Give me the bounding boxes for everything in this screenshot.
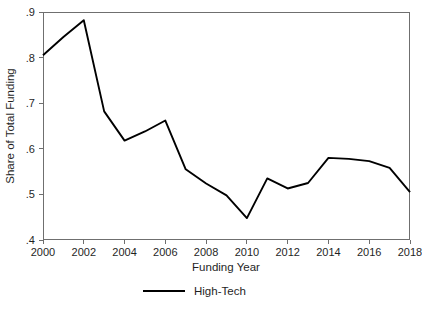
y-axis-title: Share of Total Funding <box>4 68 16 184</box>
y-tick-label: .6 <box>26 143 35 155</box>
line-chart: .4.5.6.7.8.9 200020022004200620082010201… <box>0 0 422 309</box>
x-tick-label: 2016 <box>357 246 381 258</box>
x-axis-title: Funding Year <box>192 261 260 273</box>
y-tick-label: .8 <box>26 52 35 64</box>
plot-area-background <box>43 12 410 240</box>
y-tick-label: .9 <box>26 6 35 18</box>
x-tick-label: 2004 <box>112 246 136 258</box>
x-tick-label: 2000 <box>31 246 55 258</box>
chart-figure: .4.5.6.7.8.9 200020022004200620082010201… <box>0 0 422 309</box>
x-tick-label: 2014 <box>316 246 340 258</box>
legend-label-high-tech: High-Tech <box>194 285 246 297</box>
y-tick-label: .7 <box>26 97 35 109</box>
x-tick-label: 2002 <box>72 246 96 258</box>
x-tick-label: 2018 <box>398 246 422 258</box>
x-tick-label: 2006 <box>153 246 177 258</box>
x-tick-label: 2012 <box>275 246 299 258</box>
y-tick-label: .4 <box>26 234 35 246</box>
x-tick-label: 2008 <box>194 246 218 258</box>
x-tick-label: 2010 <box>235 246 259 258</box>
y-tick-label: .5 <box>26 188 35 200</box>
